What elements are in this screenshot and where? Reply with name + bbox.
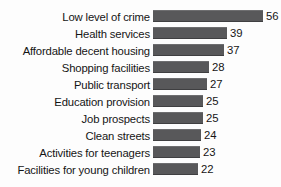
bar	[153, 27, 227, 39]
bar-track: 25	[153, 93, 281, 110]
bar-track: 24	[153, 127, 281, 144]
category-label: Health services	[0, 28, 153, 40]
bar-track: 39	[153, 25, 281, 42]
chart-row: Low level of crime 56	[0, 8, 281, 25]
category-label: Public transport	[0, 79, 153, 91]
bar	[153, 146, 200, 158]
bar	[153, 129, 201, 141]
bar-track: 25	[153, 110, 281, 127]
chart-row: Affordable decent housing 37	[0, 42, 281, 59]
category-label: Shopping facilities	[0, 62, 153, 74]
value-label: 22	[201, 162, 214, 176]
bar	[153, 163, 198, 175]
value-label: 28	[212, 60, 225, 74]
bar	[153, 10, 263, 22]
chart-row: Facilities for young children 22	[0, 161, 281, 178]
bar	[153, 78, 207, 90]
chart-row: Education provision 25	[0, 93, 281, 110]
chart-row: Clean streets 24	[0, 127, 281, 144]
bar-track: 37	[153, 42, 281, 59]
category-label: Education provision	[0, 96, 153, 108]
category-label: Job prospects	[0, 113, 153, 125]
bar	[153, 61, 209, 73]
category-label: Affordable decent housing	[0, 45, 153, 57]
value-label: 37	[227, 43, 240, 57]
category-label: Facilities for young children	[0, 164, 153, 176]
bar-track: 56	[153, 8, 281, 25]
value-label: 27	[210, 77, 223, 91]
category-label: Activities for teenagers	[0, 147, 153, 159]
value-label: 24	[204, 128, 217, 142]
bar-track: 28	[153, 59, 281, 76]
chart-row: Health services 39	[0, 25, 281, 42]
bar-track: 23	[153, 144, 281, 161]
value-label: 25	[206, 111, 219, 125]
value-label: 39	[230, 26, 243, 40]
value-label: 56	[266, 9, 279, 23]
value-label: 25	[206, 94, 219, 108]
value-label: 23	[203, 145, 216, 159]
bar	[153, 95, 203, 107]
category-label: Clean streets	[0, 130, 153, 142]
chart-row: Shopping facilities 28	[0, 59, 281, 76]
bar-track: 27	[153, 76, 281, 93]
category-label: Low level of crime	[0, 11, 153, 23]
chart-row: Job prospects 25	[0, 110, 281, 127]
bar	[153, 112, 203, 124]
chart-row: Activities for teenagers 23	[0, 144, 281, 161]
bar-track: 22	[153, 161, 281, 178]
horizontal-bar-chart: Low level of crime 56 Health services 39…	[0, 0, 281, 187]
bar	[153, 44, 224, 56]
chart-row: Public transport 27	[0, 76, 281, 93]
